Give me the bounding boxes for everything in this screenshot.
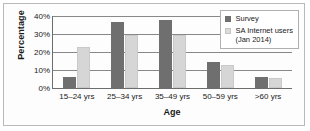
y-axis-tick-label: 0% [38, 84, 50, 93]
y-axis-tick-label: 20% [34, 48, 50, 57]
y-axis-title: Percentage [16, 0, 26, 70]
legend-swatch-survey [225, 16, 231, 22]
y-axis-tick-label: 10% [34, 66, 50, 75]
bar[interactable] [207, 62, 220, 88]
y-axis-tick-label: 30% [34, 30, 50, 39]
legend-label-sa-internet-users: SA Internet users (Jan 2014) [235, 26, 293, 44]
y-axis-tick-label: 40% [34, 12, 50, 21]
x-axis-tick-label: 35–49 yrs [155, 92, 190, 101]
bar[interactable] [173, 35, 186, 88]
bar-group: 25–34 yrs [101, 16, 149, 88]
x-axis-tick-label: 50–59 yrs [203, 92, 238, 101]
legend-label-survey: Survey [235, 14, 258, 23]
bar[interactable] [111, 22, 124, 88]
bar[interactable] [269, 78, 282, 88]
legend: Survey SA Internet users (Jan 2014) [220, 10, 299, 49]
bar[interactable] [77, 47, 90, 88]
bar-group: 35–49 yrs [149, 16, 197, 88]
x-axis-tick-label: >60 yrs [255, 92, 281, 101]
legend-swatch-sa-internet-users [225, 28, 231, 34]
legend-item-sa-internet-users: SA Internet users (Jan 2014) [225, 26, 293, 44]
bar[interactable] [125, 35, 138, 88]
bar[interactable] [159, 20, 172, 88]
x-axis-tick-label: 25–34 yrs [107, 92, 142, 101]
legend-item-survey: Survey [225, 14, 293, 23]
x-axis-tick-label: 15–24 yrs [59, 92, 94, 101]
bar-group: 15–24 yrs [53, 16, 101, 88]
bar[interactable] [221, 65, 234, 88]
chart-frame: Percentage 0%10%20%30%40% 15–24 yrs25–34… [3, 3, 305, 126]
bar[interactable] [63, 77, 76, 88]
x-axis-title: Age [52, 107, 292, 117]
bar[interactable] [255, 77, 268, 88]
